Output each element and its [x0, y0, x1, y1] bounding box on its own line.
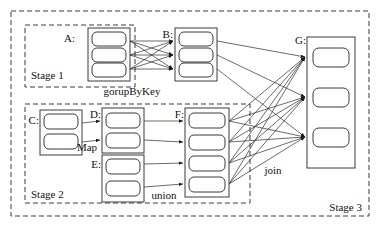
rdd-E-partition-1[interactable]	[106, 181, 140, 196]
rdd-D-partition-1[interactable]	[106, 133, 140, 148]
operation-label-map: Map	[77, 141, 98, 153]
stage-3-label: Stage 3	[329, 201, 362, 213]
rdd-B-label: B:	[163, 28, 173, 40]
rdd-G-label: G:	[295, 34, 306, 46]
edges-map	[82, 121, 100, 142]
rdd-C[interactable]: C:	[29, 110, 82, 155]
edges-union	[144, 121, 183, 187]
operation-label-join: join	[263, 164, 282, 176]
rdd-F-partition-3[interactable]	[189, 177, 225, 192]
rdd-G[interactable]: G:	[295, 34, 355, 168]
edges-groupbykey	[130, 41, 173, 69]
rdd-D[interactable]: D:	[90, 108, 144, 153]
rdd-lineage-diagram: A: B: C: D: E:	[0, 0, 380, 231]
rdd-D-label: D:	[90, 108, 101, 120]
stage-2-label: Stage 2	[31, 188, 64, 200]
rdd-A-label: A:	[64, 32, 75, 44]
rdd-F-partition-1[interactable]	[189, 135, 225, 150]
rdd-C-label: C:	[29, 114, 39, 126]
rdd-A-partition-2[interactable]	[92, 63, 126, 77]
edges-join-from-b	[217, 41, 305, 137]
rdd-B-partition-1[interactable]	[179, 48, 213, 62]
stage-1-label: Stage 1	[31, 69, 64, 81]
rdd-E-label: E:	[91, 158, 101, 170]
rdd-F-partition-0[interactable]	[189, 113, 225, 128]
rdd-A[interactable]: A:	[64, 28, 130, 81]
operation-label-groupbykey: gorupByKey	[104, 85, 161, 97]
rdd-D-partition-0[interactable]	[106, 113, 140, 128]
figure-caption	[0, 223, 380, 231]
rdd-F-partition-2[interactable]	[189, 156, 225, 171]
rdd-C-partition-1[interactable]	[44, 134, 78, 149]
operation-label-union: union	[151, 189, 177, 201]
rdd-A-partition-1[interactable]	[92, 48, 126, 62]
rdd-G-partition-0[interactable]	[313, 48, 349, 67]
rdd-G-partition-1[interactable]	[313, 88, 349, 107]
rdd-E-partition-0[interactable]	[106, 159, 140, 174]
rdd-C-partition-0[interactable]	[44, 114, 78, 129]
rdd-G-partition-2[interactable]	[313, 128, 349, 147]
diagram-canvas: A: B: C: D: E:	[0, 0, 380, 231]
rdd-B-partition-0[interactable]	[179, 32, 213, 46]
rdd-E[interactable]: E:	[91, 155, 144, 202]
rdd-A-partition-0[interactable]	[92, 32, 126, 46]
rdd-B-partition-2[interactable]	[179, 63, 213, 77]
rdd-F-label: F:	[175, 108, 184, 120]
